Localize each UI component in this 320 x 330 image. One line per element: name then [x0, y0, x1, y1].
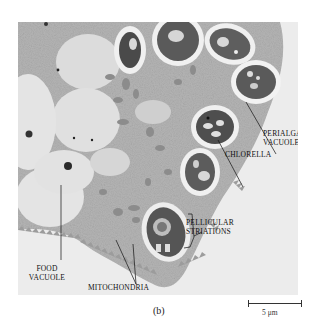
panel-caption: (b) — [153, 305, 165, 316]
label-chlorella: CHLORELLA — [225, 151, 271, 160]
electron-micrograph: PERIALGAL VACUOLE CHLORELLA PELLICULAR S… — [18, 22, 298, 295]
label-perialgal-line2: VACUOLE — [263, 139, 298, 148]
label-pellicular-line2: STRIATIONS — [186, 228, 234, 237]
scale-bar-tick-left — [248, 300, 249, 307]
scale-bar-tick-right — [301, 300, 302, 307]
label-food-vacuole: FOOD VACUOLE — [27, 265, 67, 282]
label-mitochondria: MITOCHONDRIA — [88, 284, 149, 293]
label-perialgal-vacuole: PERIALGAL VACUOLE — [263, 130, 298, 147]
scale-bar-label: 5 μm — [262, 308, 277, 317]
label-pellicular-striations: PELLICULAR STRIATIONS — [186, 219, 234, 236]
label-food-line2: VACUOLE — [27, 274, 67, 283]
scale-bar — [248, 301, 302, 307]
micrograph-figure: PERIALGAL VACUOLE CHLORELLA PELLICULAR S… — [0, 0, 320, 330]
scale-bar-line — [248, 303, 302, 304]
